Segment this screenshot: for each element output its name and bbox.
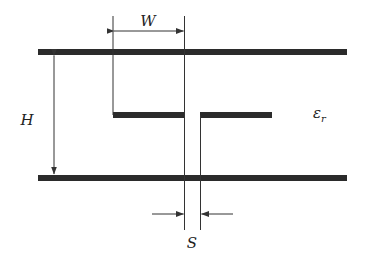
permittivity-label: εr [313, 104, 327, 124]
stripline-diagram: W S H εr [0, 0, 365, 261]
bottom-ground-plane [38, 175, 347, 181]
w-label: W [140, 12, 157, 30]
right-strip [200, 112, 272, 118]
top-ground-plane [38, 49, 347, 55]
left-strip [113, 112, 185, 118]
s-label: S [187, 234, 197, 252]
h-label: H [19, 111, 34, 129]
